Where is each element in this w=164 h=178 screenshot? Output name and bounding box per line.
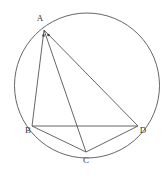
segment-bc (32, 126, 86, 152)
segment-cd (86, 126, 138, 152)
segment-ad (44, 30, 138, 126)
vertex-label-d: D (140, 125, 147, 135)
segment-ac (44, 30, 86, 152)
segment-ab (32, 30, 44, 126)
vertex-label-a: A (37, 13, 44, 23)
vertex-label-c: C (83, 155, 89, 165)
geometry-canvas: A B C D (0, 0, 164, 178)
geometry-figure: A B C D (0, 0, 164, 178)
vertex-label-b: B (25, 125, 31, 135)
circumscribed-circle (15, 13, 160, 158)
angle-mark-bac (42, 34, 44, 36)
angle-mark-cad (47, 34, 49, 36)
